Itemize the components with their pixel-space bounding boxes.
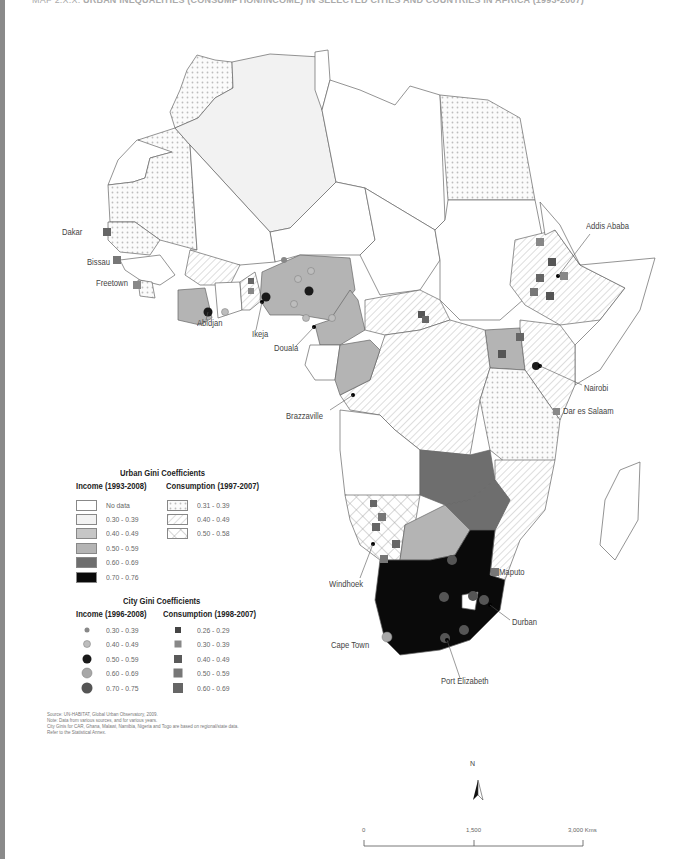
urban-gini-title: Urban Gini Coefficients xyxy=(120,468,205,478)
legend-city-income-item: 0.30 - 0.39 xyxy=(76,624,144,636)
country-gabon xyxy=(305,345,340,380)
legend-urban-consumption-item: 0.40 - 0.49 xyxy=(167,514,235,525)
city-label-douala: Douala xyxy=(274,343,298,353)
legend-city-consumption-item: 0.60 - 0.69 xyxy=(167,682,235,694)
north-label: N xyxy=(470,760,475,767)
scale-tick-0: 0 xyxy=(362,827,365,833)
city-label-durban: Durban xyxy=(512,617,537,627)
legend-city-consumption-item: 0.40 - 0.49 xyxy=(167,653,235,665)
legend-urban-income-item: 0.60 - 0.69 xyxy=(76,557,144,568)
legend-city-income-item: 0.40 - 0.49 xyxy=(76,638,144,650)
city-label-addis-ababa: Addis Ababa xyxy=(586,221,629,231)
legend-urban-income-item: 0.50 - 0.59 xyxy=(76,543,144,554)
legend-urban-income-item: 0.40 - 0.49 xyxy=(76,528,144,539)
city-consumption-header: Consumption (1998-2007) xyxy=(163,609,256,619)
legend-urban-consumption-item: 0.50 - 0.58 xyxy=(167,528,235,539)
city-income-header: Income (1996-2008) xyxy=(76,609,147,619)
city-label-ikeja: Ikeja xyxy=(252,329,268,339)
scale-tick-3000: 3,000 Kms xyxy=(568,827,597,833)
legend-city-consumption-item: 0.30 - 0.39 xyxy=(167,638,235,650)
city-label-port-elizabeth: Port Elizabeth xyxy=(441,676,489,686)
city-gini-title: City Gini Coefficients xyxy=(123,596,200,606)
legend-urban-income-item: 0.30 - 0.39 xyxy=(76,514,144,525)
city-label-nairobi: Nairobi xyxy=(584,383,608,393)
scale-tick-1500: 1,500 xyxy=(466,827,481,833)
urban-consumption-header: Consumption (1997-2007) xyxy=(166,481,259,491)
note-line: Refer to the Statistical Annex. xyxy=(47,730,287,736)
legend-city-consumption-item: 0.26 - 0.29 xyxy=(167,624,235,636)
country-madagascar xyxy=(600,462,640,560)
country-egypt xyxy=(440,95,535,200)
city-label-cape-town: Cape Town xyxy=(331,640,369,650)
legend-urban-income-item: No data xyxy=(76,500,134,511)
legend-city-consumption-item: 0.50 - 0.59 xyxy=(167,667,235,679)
country-guinea xyxy=(120,255,175,285)
legend-urban-consumption-item: 0.31 - 0.39 xyxy=(167,500,235,511)
city-label-freetown: Freetown xyxy=(96,278,128,288)
legend-city-income-item: 0.70 - 0.75 xyxy=(76,682,144,694)
city-label-abidjan: Abidjan xyxy=(197,318,223,328)
city-label-dakar: Dakar xyxy=(62,227,82,237)
city-label-maputo: Maputo xyxy=(499,567,525,577)
urban-income-header: Income (1993-2008) xyxy=(76,481,147,491)
city-label-dar-es-salaam: Dar es Salaam xyxy=(563,406,614,416)
north-arrow-icon xyxy=(473,780,483,800)
city-label-windhoek: Windhoek xyxy=(329,579,363,589)
city-label-bissau: Bissau xyxy=(87,257,110,267)
legend-city-income-item: 0.50 - 0.59 xyxy=(76,653,144,665)
scale-bar xyxy=(364,840,583,846)
legend-urban-income-item: 0.70 - 0.76 xyxy=(76,572,144,583)
legend-city-income-item: 0.60 - 0.69 xyxy=(76,667,144,679)
source-note: Source: UN-HABITAT, Global Urban Observa… xyxy=(47,712,287,736)
city-label-brazzaville: Brazzaville xyxy=(286,411,323,421)
